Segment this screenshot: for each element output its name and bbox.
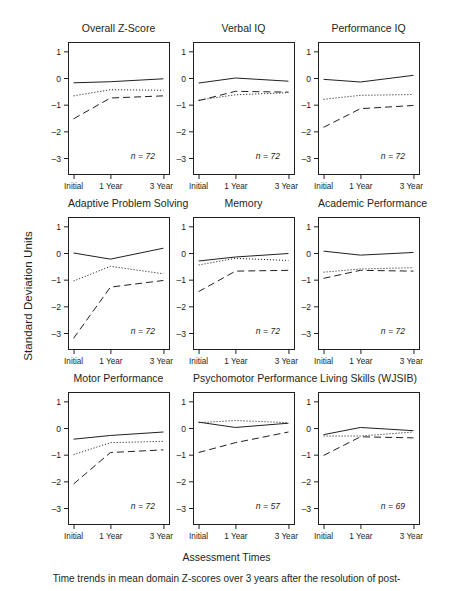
series-line-dashed (199, 432, 289, 453)
sample-size-annotation: n = 72 (131, 501, 155, 511)
y-axis-label: Standard Deviation Units (22, 216, 34, 376)
series-line-solid (74, 79, 164, 83)
series-line-solid (324, 75, 414, 82)
x-tick-label: Initial (189, 357, 208, 366)
panel-title: Overall Z-Score (68, 22, 169, 34)
panel-title: Living Skills (WJSIB) (318, 372, 419, 384)
y-tick-label: –2 (301, 127, 311, 137)
y-tick-label: 0 (181, 249, 186, 259)
x-tick-label: Initial (314, 357, 333, 366)
series-line-dashed (324, 270, 414, 278)
y-tick-label: –2 (176, 302, 186, 312)
sample-size-annotation: n = 57 (256, 501, 281, 511)
sample-size-annotation: n = 72 (131, 151, 155, 161)
plot-area: 10–1–2–3Initial1 Year3 Yearn = 69 (284, 386, 453, 546)
y-tick-label: –2 (176, 477, 186, 487)
figure-caption: Time trends in mean domain Z-scores over… (0, 573, 453, 584)
x-tick-label: 1 Year (99, 182, 122, 191)
series-line-solid (74, 248, 164, 259)
x-tick-label: Initial (314, 182, 333, 191)
y-tick-label: 1 (181, 222, 186, 232)
y-tick-label: –1 (176, 450, 186, 460)
x-tick-label: Initial (314, 532, 333, 541)
x-tick-label: 3 Year (400, 532, 423, 541)
x-tick-label: 1 Year (224, 532, 247, 541)
series-line-solid (74, 432, 164, 439)
y-tick-label: 0 (306, 74, 311, 84)
x-tick-label: 1 Year (99, 532, 122, 541)
y-tick-label: 0 (56, 424, 61, 434)
x-tick-label: Initial (189, 532, 208, 541)
y-tick-label: –3 (51, 329, 61, 339)
series-line-solid (199, 254, 289, 261)
y-tick-label: –3 (176, 504, 186, 514)
y-tick-label: –1 (176, 275, 186, 285)
y-tick-label: –2 (51, 477, 61, 487)
y-tick-label: 1 (306, 222, 311, 232)
x-tick-label: 3 Year (400, 182, 423, 191)
y-tick-label: 1 (306, 397, 311, 407)
sample-size-annotation: n = 72 (256, 326, 280, 336)
plot-area: 10–1–2–3Initial1 Year3 Yearn = 72 (284, 211, 453, 371)
series-line-dashed (324, 437, 414, 456)
y-tick-label: –1 (176, 100, 186, 110)
y-tick-label: 0 (306, 249, 311, 259)
y-tick-label: –3 (301, 329, 311, 339)
panel-title: Adaptive Problem Solving (68, 197, 169, 209)
series-line-dashed (199, 91, 289, 100)
panel-title: Motor Performance (68, 372, 169, 384)
x-tick-label: 1 Year (349, 532, 372, 541)
sample-size-annotation: n = 72 (256, 151, 280, 161)
y-tick-label: –3 (301, 154, 311, 164)
y-tick-label: –3 (51, 154, 61, 164)
series-line-solid (324, 427, 414, 434)
sample-size-annotation: n = 72 (381, 151, 405, 161)
y-tick-label: –1 (301, 100, 311, 110)
panel-title: Verbal IQ (193, 22, 294, 34)
series-line-dotted (74, 266, 164, 281)
y-tick-label: –2 (176, 127, 186, 137)
series-line-dotted (74, 441, 164, 454)
y-tick-label: –3 (176, 329, 186, 339)
y-tick-label: –1 (51, 275, 61, 285)
y-tick-label: –2 (51, 302, 61, 312)
y-tick-label: 1 (306, 47, 311, 57)
x-tick-label: 1 Year (349, 182, 372, 191)
y-tick-label: –1 (301, 275, 311, 285)
x-tick-label: Initial (189, 182, 208, 191)
sample-size-annotation: n = 69 (381, 501, 405, 511)
sample-size-annotation: n = 72 (381, 326, 405, 336)
y-tick-label: –3 (176, 154, 186, 164)
series-line-dotted (199, 421, 289, 423)
x-axis-label: Assessment Times (0, 551, 453, 563)
plot-area: 10–1–2–3Initial1 Year3 Yearn = 72 (284, 36, 453, 196)
panel-title: Psychomotor Performance (193, 372, 294, 384)
series-line-dotted (74, 90, 164, 96)
y-tick-label: 0 (56, 249, 61, 259)
series-line-solid (199, 78, 289, 83)
series-line-dashed (74, 96, 164, 119)
series-line-dotted (324, 268, 414, 273)
y-tick-label: 0 (181, 424, 186, 434)
y-tick-label: 1 (56, 397, 61, 407)
y-tick-label: –2 (51, 127, 61, 137)
series-line-dotted (324, 95, 414, 100)
panel-title: Memory (193, 197, 294, 209)
sample-size-annotation: n = 72 (131, 326, 155, 336)
y-tick-label: –2 (301, 302, 311, 312)
y-tick-label: 1 (56, 47, 61, 57)
y-tick-label: –1 (51, 450, 61, 460)
series-line-solid (199, 422, 289, 427)
y-tick-label: –1 (301, 450, 311, 460)
series-line-solid (324, 251, 414, 255)
x-tick-label: Initial (64, 182, 83, 191)
y-tick-label: 1 (181, 397, 186, 407)
series-line-dotted (199, 93, 289, 100)
x-tick-label: 1 Year (99, 357, 122, 366)
y-tick-label: 1 (181, 47, 186, 57)
series-line-dotted (324, 432, 414, 436)
series-line-dashed (324, 105, 414, 127)
series-line-dashed (74, 450, 164, 484)
x-tick-label: Initial (64, 357, 83, 366)
x-tick-label: 1 Year (224, 357, 247, 366)
